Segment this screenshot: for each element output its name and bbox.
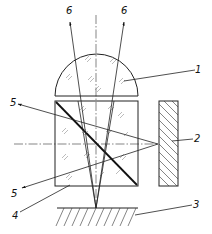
leader-lines xyxy=(20,70,195,215)
reflector-plate xyxy=(159,88,180,197)
label-5-bottom: 5 xyxy=(11,188,17,199)
base-surface xyxy=(56,208,138,226)
output-rays xyxy=(70,22,124,208)
label-2: 2 xyxy=(194,133,200,144)
side-rays xyxy=(18,104,158,188)
optical-diagram: 6 6 1 2 3 4 5 5 xyxy=(0,0,212,234)
label-6-left: 6 xyxy=(66,5,72,16)
hemisphere-lens xyxy=(55,54,138,96)
splitter-diagonal xyxy=(56,102,137,185)
label-1: 1 xyxy=(195,64,201,75)
label-3: 3 xyxy=(193,199,199,210)
label-4: 4 xyxy=(12,210,18,221)
label-5-top: 5 xyxy=(10,97,16,108)
label-6-right: 6 xyxy=(121,5,127,16)
